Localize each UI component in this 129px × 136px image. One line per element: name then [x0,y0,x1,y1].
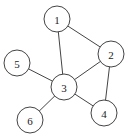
node-label: 6 [27,115,33,127]
nodes-layer: 123456 [4,6,124,133]
node-6: 6 [17,107,43,133]
node-label: 5 [14,58,20,70]
node-5: 5 [4,50,30,76]
graph-diagram: 123456 [0,0,129,136]
node-label: 2 [108,49,114,61]
node-1: 1 [44,6,70,32]
node-2: 2 [98,41,124,67]
node-label: 4 [101,108,107,120]
node-3: 3 [51,74,77,100]
node-label: 3 [61,82,67,94]
node-4: 4 [91,100,117,126]
node-label: 1 [54,14,60,26]
